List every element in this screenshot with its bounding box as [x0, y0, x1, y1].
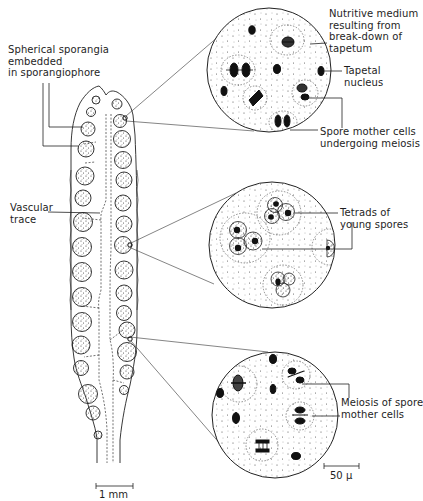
sporangium	[76, 167, 94, 185]
sporangium	[115, 152, 132, 169]
sporangium	[112, 99, 122, 109]
sporangium	[114, 131, 131, 148]
sporangium	[114, 115, 127, 128]
sporangium	[75, 190, 91, 206]
sporangium	[78, 141, 94, 157]
label-spherical-sporangia: Spherical sporangia embedded in sporangi…	[8, 44, 109, 79]
sporangium	[74, 213, 93, 232]
label-tapetal-nucleus: Tapetal nucleus	[344, 65, 383, 88]
scale-bar-1mm-label: 1 mm	[99, 489, 128, 500]
inset-bottom-meiosis	[205, 345, 350, 485]
sporangium	[73, 238, 92, 257]
sporangium	[92, 96, 100, 104]
label-spore-mother-cells: Spore mother cells undergoing meiosis	[320, 126, 420, 149]
sporangium	[115, 261, 133, 279]
sporangium	[117, 306, 132, 321]
sporangia-right-column	[112, 99, 137, 395]
inset-middle-tetrads	[200, 175, 348, 315]
sporangium	[120, 386, 129, 395]
sporangium	[72, 336, 90, 354]
sporangium	[118, 343, 137, 362]
label-nutritive-medium: Nutritive medium resulting from break-do…	[329, 8, 418, 54]
sporangium	[79, 385, 98, 404]
sporangium	[116, 172, 132, 188]
sporangium	[86, 406, 100, 420]
sporangium	[115, 195, 131, 211]
sporangia-left-column	[72, 96, 102, 439]
sporangium	[87, 108, 96, 117]
sporangium	[81, 122, 95, 136]
sporangium	[120, 365, 134, 379]
sporangium	[94, 431, 102, 439]
label-tetrads: Tetrads of young spores	[340, 207, 408, 230]
sporangium	[73, 263, 92, 282]
sporangium	[73, 288, 92, 307]
sporangium	[119, 322, 135, 338]
inset-top-meiosis	[200, 0, 340, 140]
label-meiosis: Meiosis of spore mother cells	[341, 397, 423, 420]
sporangium	[116, 285, 132, 301]
sporangium	[74, 361, 89, 376]
sporangium	[116, 216, 132, 232]
sporangium	[115, 237, 132, 254]
sporangium	[73, 313, 92, 332]
label-vascular-trace: Vascular trace	[10, 202, 53, 225]
scale-bar-50um-label: 50 μ	[330, 470, 352, 481]
